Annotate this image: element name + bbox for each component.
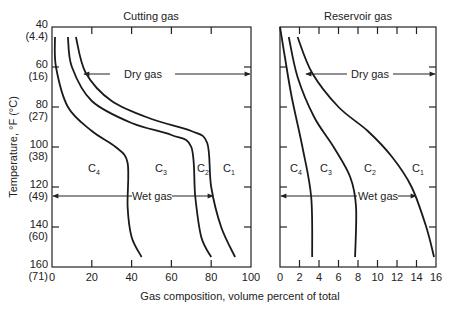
y-tick-label-f: 100 bbox=[30, 138, 48, 150]
left-x-tick-labels: 020406080100 bbox=[49, 271, 260, 283]
x-tick-label: 40 bbox=[125, 271, 137, 283]
x-tick-label: 0 bbox=[49, 271, 55, 283]
y-tick-label-f: 40 bbox=[36, 18, 48, 30]
right-label-c2: C2 bbox=[364, 162, 376, 176]
left-label-c2: C2 bbox=[197, 162, 209, 176]
x-tick-label: 16 bbox=[430, 271, 442, 283]
right-curves bbox=[280, 27, 434, 257]
y-tick-label-c: (71) bbox=[28, 270, 48, 282]
x-tick-label: 6 bbox=[335, 271, 341, 283]
right-label-c4: C4 bbox=[290, 162, 302, 176]
y-tick-label-f: 80 bbox=[36, 98, 48, 110]
left-wet-gas-label: Wet gas bbox=[132, 190, 173, 202]
right-panel-title: Reservoir gas bbox=[324, 10, 392, 22]
boundary-curve bbox=[289, 37, 357, 257]
left-label-c3: C3 bbox=[155, 162, 167, 176]
y-tick-label-f: 140 bbox=[30, 218, 48, 230]
y-tick-label-c: (60) bbox=[28, 230, 48, 242]
right-dry-gas-label: Dry gas bbox=[351, 68, 389, 80]
y-tick-label-c: (49) bbox=[28, 190, 48, 202]
right-label-c1: C1 bbox=[412, 162, 424, 176]
y-tick-label-f: 160 bbox=[30, 258, 48, 270]
left-dry-gas-label: Dry gas bbox=[124, 68, 162, 80]
left-label-c4: C4 bbox=[88, 162, 100, 176]
x-tick-label: 80 bbox=[205, 271, 217, 283]
left-panel-title: Cutting gas bbox=[123, 10, 179, 22]
y-tick-label-c: (27) bbox=[28, 110, 48, 122]
x-tick-label: 4 bbox=[316, 271, 322, 283]
right-x-tick-labels: 0246810121416 bbox=[277, 271, 442, 283]
x-tick-label: 14 bbox=[410, 271, 422, 283]
x-tick-label: 100 bbox=[242, 271, 260, 283]
y-tick-label-f: 120 bbox=[30, 178, 48, 190]
right-label-c3: C3 bbox=[320, 162, 332, 176]
right-axis-ticks bbox=[280, 27, 436, 267]
left-label-c1: C1 bbox=[223, 162, 235, 176]
x-tick-label: 10 bbox=[371, 271, 383, 283]
x-tick-label: 2 bbox=[296, 271, 302, 283]
right-plot-frame bbox=[280, 27, 436, 267]
y-tick-label-c: (38) bbox=[28, 150, 48, 162]
y-axis-label: Temperature, °F (°C) bbox=[7, 96, 19, 198]
x-axis-label: Gas composition, volume percent of total bbox=[140, 290, 339, 302]
x-tick-label: 12 bbox=[391, 271, 403, 283]
x-tick-label: 8 bbox=[355, 271, 361, 283]
y-tick-label-f: 60 bbox=[36, 58, 48, 70]
x-tick-label: 20 bbox=[86, 271, 98, 283]
left-panel-cutting-gas: Cutting gas 020406080100 Dry gas Wet gas… bbox=[49, 10, 260, 283]
x-tick-label: 60 bbox=[165, 271, 177, 283]
gas-composition-chart: Temperature, °F (°C) 40(4.4)60(16)80(27)… bbox=[0, 0, 452, 309]
y-tick-labels: 40(4.4)60(16)80(27)100(38)120(49)140(60)… bbox=[25, 18, 48, 282]
y-tick-label-c: (4.4) bbox=[25, 30, 48, 42]
right-wet-gas-label: Wet gas bbox=[358, 190, 399, 202]
y-tick-label-c: (16) bbox=[28, 70, 48, 82]
x-tick-label: 0 bbox=[277, 271, 283, 283]
right-panel-reservoir-gas: Reservoir gas 0246810121416 Dry gas Wet … bbox=[277, 10, 442, 283]
